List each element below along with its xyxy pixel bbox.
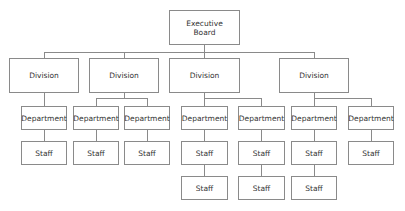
staff-box: Staff [73,141,119,165]
staff-label: Staff [305,149,322,158]
department-box: Department [73,106,119,130]
connector-line [314,93,315,106]
division-label: Division [29,71,59,80]
connector-line [261,165,262,176]
connector-line [204,130,205,141]
department-box: Department [348,106,394,130]
staff-box: Staff [348,141,394,165]
connector-line [44,93,45,106]
division-box: Division [279,58,349,93]
staff-label: Staff [196,149,213,158]
division-box: Division [89,58,159,93]
connector-line [261,98,262,106]
staff-label: Staff [87,149,104,158]
connector-line [147,130,148,141]
department-label: Department [182,114,227,123]
connector-line [314,130,315,141]
staff-label: Staff [35,149,52,158]
connector-line [96,98,148,99]
department-box: Department [181,106,228,130]
department-label: Department [21,114,66,123]
staff-box: Staff [238,176,285,200]
executive-board-box: ExecutiveBoard [169,10,240,45]
connector-line [147,98,148,106]
connector-line [314,98,371,99]
connector-line [96,130,97,141]
staff-box: Staff [291,176,337,200]
staff-label: Staff [362,149,379,158]
connector-line [371,98,372,106]
staff-box: Staff [181,141,228,165]
division-label: Division [109,71,139,80]
label-line: Executive [186,19,223,28]
division-box: Division [169,58,240,93]
department-box: Department [291,106,337,130]
connector-line [314,165,315,176]
division-label: Division [299,71,329,80]
connector-line [204,165,205,176]
label-line: Board [193,28,215,37]
staff-label: Staff [196,184,213,193]
staff-label: Staff [138,149,155,158]
department-box: Department [124,106,170,130]
staff-label: Staff [253,184,270,193]
connector-line [371,130,372,141]
department-box: Department [238,106,285,130]
connector-line [261,130,262,141]
department-box: Department [21,106,67,130]
connector-line [204,93,205,106]
department-label: Department [239,114,284,123]
staff-box: Staff [238,141,285,165]
department-label: Department [348,114,393,123]
staff-label: Staff [305,184,322,193]
staff-box: Staff [21,141,67,165]
executive-board-label: ExecutiveBoard [186,19,223,37]
staff-box: Staff [291,141,337,165]
department-label: Department [124,114,169,123]
connector-line [96,98,97,106]
org-chart: ExecutiveBoardDivisionDivisionDivisionDi… [0,0,405,211]
staff-box: Staff [124,141,170,165]
staff-label: Staff [253,149,270,158]
connector-line [44,130,45,141]
connector-line [44,52,315,53]
connector-line [204,45,205,52]
department-label: Department [291,114,336,123]
department-label: Department [73,114,118,123]
staff-box: Staff [181,176,228,200]
division-box: Division [9,58,79,93]
connector-line [204,98,262,99]
division-label: Division [190,71,220,80]
